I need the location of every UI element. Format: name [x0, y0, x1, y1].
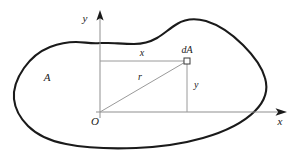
- r-distance-line: [100, 61, 187, 112]
- area-moment-diagram: y x O A dA x y r: [0, 0, 299, 159]
- y-axis-label: y: [82, 12, 88, 24]
- area-outline: [14, 19, 266, 148]
- r-distance-label: r: [138, 71, 142, 82]
- element-marker: [184, 58, 190, 64]
- diagram-canvas: y x O A dA x y r: [0, 0, 299, 159]
- x-axis-label: x: [277, 115, 283, 127]
- x-distance-label: x: [139, 47, 145, 58]
- origin-label: O: [91, 115, 99, 127]
- y-distance-label: y: [193, 79, 199, 90]
- region-label: A: [43, 71, 51, 83]
- element-label: dA: [181, 44, 193, 55]
